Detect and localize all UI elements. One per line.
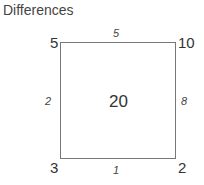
center-value: 20 xyxy=(109,93,128,110)
diagram-title: Differences xyxy=(3,2,74,18)
edge-bottom: 1 xyxy=(113,165,119,176)
edge-top: 5 xyxy=(113,28,119,39)
corner-top-left: 5 xyxy=(50,35,58,50)
corner-top-right: 10 xyxy=(178,35,195,50)
edge-right: 8 xyxy=(181,96,187,107)
edge-left: 2 xyxy=(45,96,51,107)
corner-bottom-right: 2 xyxy=(178,160,186,175)
corner-bottom-left: 3 xyxy=(50,160,58,175)
